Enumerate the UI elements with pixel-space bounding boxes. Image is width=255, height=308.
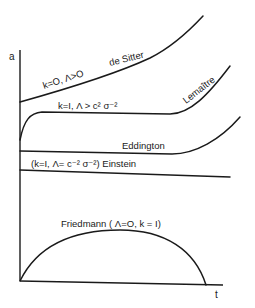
lemaitre-condition-label: k=I, Λ > c² σ⁻²: [58, 100, 117, 111]
de-sitter-condition-label: k=O, Λ>O: [41, 67, 85, 91]
friedmann-curve: [20, 230, 206, 285]
eddington-name-label: Eddington: [122, 140, 165, 151]
friedmann-label: Friedmann ( Λ=O, k = I): [61, 218, 161, 229]
x-axis: [20, 281, 223, 285]
de-sitter-name-label: de Sitter: [108, 49, 145, 68]
einstein-label: (k=I, Λ= c⁻² σ⁻²) Einstein: [31, 158, 136, 169]
cosmology-diagram: a t k=O, Λ>O de Sitter k=I, Λ > c² σ⁻² L…: [0, 0, 255, 308]
x-axis-label: t: [215, 289, 218, 300]
einstein-curve: [20, 170, 230, 177]
y-axis-label: a: [9, 51, 15, 62]
